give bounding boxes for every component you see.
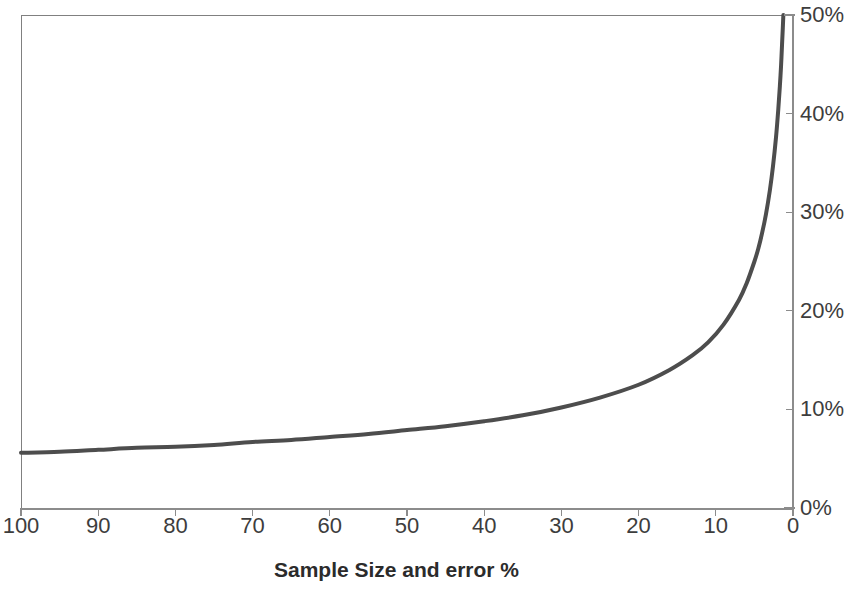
y-tick-40pct [786,113,794,114]
y-tick-0pct [784,507,795,508]
y-tick-label-20pct: 20% [800,299,844,323]
series-layer [0,0,867,595]
x-tick-label-30: 30 [549,513,573,539]
y-axis-line [792,15,794,509]
chart-container: 1009080706050403020100 0%10%20%30%40%50%… [0,0,867,595]
x-tick-label-100: 100 [3,513,40,539]
y-tick-label-50pct: 50% [800,3,844,27]
y-tick-20pct [786,310,794,311]
x-tick-label-40: 40 [472,513,496,539]
x-tick-label-0: 0 [787,513,799,539]
x-tick-label-20: 20 [626,513,650,539]
y-tick-10pct [786,409,794,410]
y-tick-30pct [786,212,794,213]
x-tick-label-10: 10 [704,513,728,539]
y-tick-label-40pct: 40% [800,102,844,126]
x-axis-title: Sample Size and error % [0,558,793,582]
y-tick-label-30pct: 30% [800,200,844,224]
x-tick-label-80: 80 [163,513,187,539]
y-tick-label-0pct: 0% [800,496,832,520]
x-tick-label-50: 50 [395,513,419,539]
x-tick-label-60: 60 [318,513,342,539]
y-tick-50pct [784,14,795,15]
y-tick-label-10pct: 10% [800,397,844,421]
x-tick-label-90: 90 [86,513,110,539]
margin-of-error-line [21,15,783,453]
x-tick-label-70: 70 [240,513,264,539]
